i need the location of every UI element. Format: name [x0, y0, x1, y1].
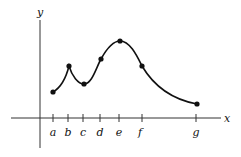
- tick-label-g: g: [192, 126, 199, 139]
- tick-label-a: a: [50, 126, 57, 139]
- point-g: [194, 101, 199, 106]
- point-f: [139, 63, 144, 68]
- tick-label-d: d: [96, 126, 103, 139]
- point-e: [117, 38, 122, 43]
- function-curve: [53, 41, 197, 104]
- y-axis-label: y: [36, 6, 44, 19]
- point-c: [81, 81, 86, 86]
- tick-label-f: f: [137, 126, 144, 139]
- tick-labels: a b c d e f g: [50, 126, 200, 139]
- point-d: [98, 56, 103, 61]
- point-b: [66, 63, 71, 68]
- tick-label-b: b: [64, 126, 71, 139]
- tick-label-c: c: [80, 126, 86, 139]
- point-a: [50, 89, 55, 94]
- function-graph: x y a b c d e f g: [0, 0, 241, 157]
- tick-label-e: e: [116, 126, 123, 139]
- data-points: [50, 38, 199, 106]
- x-axis-label: x: [224, 112, 231, 125]
